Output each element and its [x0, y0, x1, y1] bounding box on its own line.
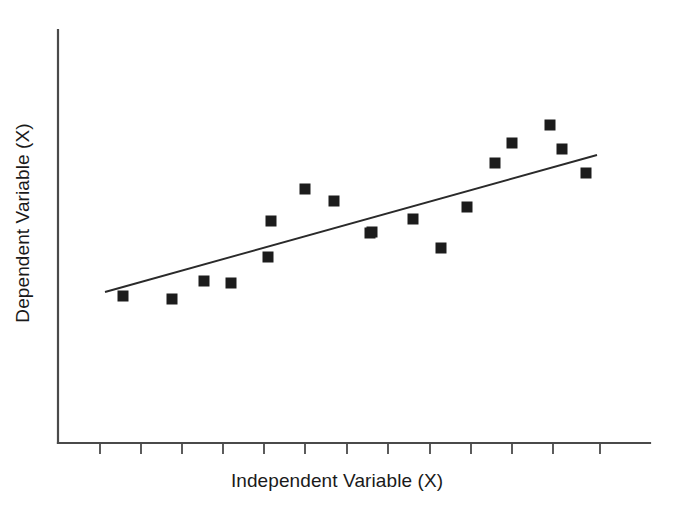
data-point-11	[462, 202, 473, 213]
y-axis-label-container: Dependent Variable (X)	[0, 0, 46, 446]
data-point-7	[329, 196, 340, 207]
data-points	[118, 120, 592, 305]
x-axis-label: Independent Variable (X)	[0, 470, 674, 492]
data-point-6	[300, 184, 311, 195]
x-axis-ticks	[100, 443, 600, 454]
data-point-2	[199, 276, 210, 287]
data-point-10	[436, 243, 447, 254]
data-point-14	[545, 120, 556, 131]
data-point-16	[581, 168, 592, 179]
data-point-15	[557, 144, 568, 155]
data-point-3	[226, 278, 237, 289]
plot-canvas	[0, 0, 674, 516]
y-axis-label: Dependent Variable (X)	[12, 123, 34, 322]
data-point-5	[266, 216, 277, 227]
trend-line	[105, 155, 597, 292]
data-point-1	[167, 294, 178, 305]
data-point-0	[118, 291, 129, 302]
data-point-12	[490, 158, 501, 169]
data-point-13	[507, 138, 518, 149]
scatter-plot-figure: Dependent Variable (X) Independent Varia…	[0, 0, 674, 516]
data-point-4	[263, 252, 274, 263]
data-point-9	[408, 214, 419, 225]
axes-group	[58, 30, 650, 443]
data-point-17	[365, 228, 376, 239]
regression-line	[105, 155, 597, 292]
